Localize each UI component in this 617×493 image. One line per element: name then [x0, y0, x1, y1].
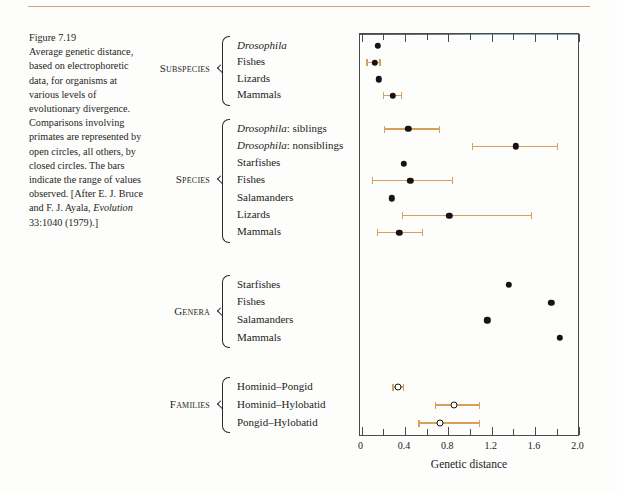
- data-point-closed: [376, 76, 382, 82]
- taxon-plain: Mammals: [237, 88, 281, 100]
- range-cap: [439, 126, 440, 133]
- data-point-closed: [375, 43, 381, 49]
- plot-top-edge: [360, 34, 578, 35]
- caption-line: indicate the range of values: [29, 173, 179, 187]
- data-point-closed: [401, 160, 407, 166]
- range-cap: [479, 420, 480, 427]
- axis-tick: [513, 34, 514, 40]
- axis-tick: [535, 34, 536, 42]
- group-label-families: Families: [170, 398, 210, 410]
- taxon-plain: Starfishes: [237, 156, 280, 168]
- caption-line: various levels of: [29, 88, 179, 102]
- figure-number: Figure 7.19: [29, 31, 179, 45]
- data-point-open: [450, 402, 457, 409]
- axis-tick: [362, 427, 363, 435]
- data-point-closed: [396, 230, 402, 236]
- range-cap: [557, 143, 558, 150]
- taxon-plain: Salamanders: [237, 313, 293, 325]
- data-point-closed: [371, 59, 377, 65]
- group-label-genera: Genera: [174, 305, 210, 317]
- caption-line: based on electrophoretic: [29, 59, 179, 73]
- range-cap: [377, 229, 378, 236]
- taxon-plain: Fishes: [237, 295, 265, 307]
- row-label: Drosophila: nonsiblings: [237, 140, 343, 151]
- axis-tick: [405, 427, 406, 435]
- plot-area: [359, 33, 579, 436]
- axis-tick: [579, 34, 580, 42]
- row-label: Lizards: [237, 73, 270, 84]
- caption-line: observed. [After E. J. Bruce: [29, 187, 179, 201]
- top-decorative-rule: [28, 6, 590, 7]
- row-label: Fishes: [237, 296, 265, 307]
- caption-line: open circles, all others, by: [29, 145, 179, 159]
- data-point-open: [436, 420, 443, 427]
- range-cap: [366, 59, 367, 66]
- axis-tick: [513, 429, 514, 435]
- row-label: Lizards: [237, 209, 270, 220]
- axis-tick: [362, 34, 363, 42]
- axis-tick-label: 1.6: [528, 440, 541, 451]
- axis-tick: [492, 34, 493, 42]
- axis-tick: [427, 429, 428, 435]
- row-label: Salamanders: [237, 314, 293, 325]
- axis-tick-label: 0.4: [398, 440, 411, 451]
- axis-tick-label: 0: [358, 440, 363, 451]
- data-point-closed: [405, 126, 411, 132]
- range-cap: [402, 212, 403, 219]
- range-cap: [418, 420, 419, 427]
- axis-tick: [448, 34, 449, 42]
- axis-tick-label: 1.2: [484, 440, 497, 451]
- axis-tick: [383, 429, 384, 435]
- range-cap: [403, 384, 404, 391]
- range-cap: [435, 402, 436, 409]
- axis-tick: [579, 427, 580, 435]
- figure-caption-body: Average genetic distance,based on electr…: [29, 45, 179, 230]
- taxon-plain: : siblings: [287, 122, 327, 134]
- range-bar: [435, 404, 479, 405]
- axis-tick-label: 0.8: [441, 440, 454, 451]
- axis-tick: [470, 429, 471, 435]
- axis-tick: [427, 34, 428, 40]
- data-point-closed: [506, 282, 512, 288]
- data-point-closed: [390, 93, 396, 99]
- taxon-italic: Drosophila: [237, 139, 287, 151]
- axis-tick: [448, 427, 449, 435]
- taxon-plain: Hominid–Hylobatid: [237, 398, 326, 410]
- group-label-species: Species: [176, 173, 210, 185]
- taxon-plain: : nonsiblings: [287, 139, 344, 151]
- axis-tick: [492, 427, 493, 435]
- caption-line: Comparisons involving: [29, 116, 179, 130]
- row-label: Mammals: [237, 226, 281, 237]
- range-bar: [384, 128, 439, 129]
- caption-line: closed circles. The bars: [29, 159, 179, 173]
- row-label: Pongid–Hylobatid: [237, 417, 318, 428]
- axis-tick: [470, 34, 471, 40]
- range-cap: [422, 229, 423, 236]
- taxon-plain: Salamanders: [237, 191, 293, 203]
- axis-tick-label: 2.0: [571, 440, 584, 451]
- range-bar: [419, 422, 480, 423]
- range-cap: [531, 212, 532, 219]
- axis-tick: [405, 34, 406, 42]
- taxon-plain: Fishes: [237, 173, 265, 185]
- range-cap: [452, 177, 453, 184]
- data-point-closed: [484, 317, 490, 323]
- row-label: Mammals: [237, 89, 281, 100]
- axis-tick: [535, 427, 536, 435]
- caption-text: and F. J. Ayala,: [29, 202, 93, 213]
- taxon-plain: Mammals: [237, 225, 281, 237]
- range-cap: [384, 126, 385, 133]
- data-point-closed: [512, 143, 518, 149]
- data-point-closed: [407, 178, 413, 184]
- range-cap: [479, 402, 480, 409]
- data-point-open: [395, 384, 402, 391]
- axis-tick: [383, 34, 384, 40]
- taxon-plain: Lizards: [237, 72, 270, 84]
- taxon-plain: Lizards: [237, 208, 270, 220]
- row-label: Starfishes: [237, 279, 280, 290]
- taxon-italic: Drosophila: [237, 39, 287, 51]
- range-cap: [392, 384, 393, 391]
- row-label: Fishes: [237, 174, 265, 185]
- row-label: Hominid–Hylobatid: [237, 399, 326, 410]
- axis-tick: [557, 429, 558, 435]
